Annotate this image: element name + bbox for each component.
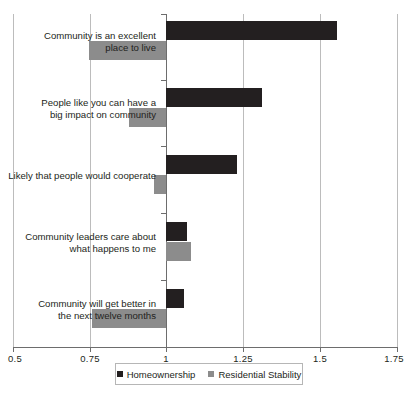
legend-swatch-icon-residential-stability [208,371,214,377]
legend-label-residential-stability: Residential Stability [218,369,301,380]
x-tick-4 [320,347,321,352]
legend-swatch-icon-homeownership [117,371,123,377]
legend-item-homeownership[interactable]: Homeownership [117,369,196,380]
bar-homeownership-4 [166,289,184,308]
category-tick-2 [161,146,166,147]
x-tick-1 [90,347,91,352]
category-tick-4 [161,280,166,281]
bar-homeownership-1 [166,88,262,107]
chart-container: Community is an excellent place to live … [0,0,412,394]
chart-legend: Homeownership Residential Stability [115,363,303,385]
category-label-3: Community leaders care about what happen… [0,231,161,254]
x-tick-label-4: 1.5 [313,353,327,364]
x-axis-line [13,347,397,348]
legend-item-residential-stability[interactable]: Residential Stability [208,369,301,380]
category-tick-top [161,14,166,15]
gridline-1.25 [243,14,244,347]
x-tick-label-1: 0.75 [80,353,99,364]
x-tick-5 [397,347,398,352]
category-tick-3 [161,213,166,214]
bar-residential-stability-3 [166,242,191,261]
category-label-2: Likely that people would cooperate [0,170,161,182]
legend-label-homeownership: Homeownership [127,369,196,380]
bar-homeownership-0 [166,21,337,40]
gridline-1.5 [320,14,321,347]
gridline-1.75 [397,14,398,347]
bar-homeownership-3 [166,222,187,241]
x-tick-0 [13,347,14,352]
category-label-4: Community will get better in the next tw… [0,298,161,321]
bar-homeownership-2 [166,155,237,174]
x-tick-2 [166,347,167,352]
category-label-0: Community is an excellent place to live [0,30,161,53]
x-tick-label-0: 0.5 [8,353,22,364]
category-label-1: People like you can have a big impact on… [0,97,161,120]
category-tick-1 [161,80,166,81]
x-tick-3 [243,347,244,352]
x-tick-label-5: 1.75 [384,353,403,364]
